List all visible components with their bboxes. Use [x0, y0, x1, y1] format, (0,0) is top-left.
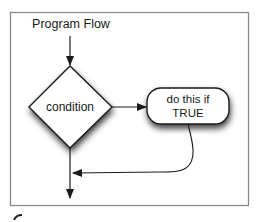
condition-label: condition — [46, 100, 94, 114]
diagram-title: Program Flow — [32, 17, 111, 31]
flowchart-diagram: Program Flow condition do this if TRUE — [0, 0, 261, 222]
arrow-action-to-main-flow — [73, 124, 193, 173]
action-label-line2: TRUE — [172, 107, 204, 119]
action-label-line1: do this if — [167, 93, 211, 105]
corner-glyph-fragment — [14, 215, 22, 220]
